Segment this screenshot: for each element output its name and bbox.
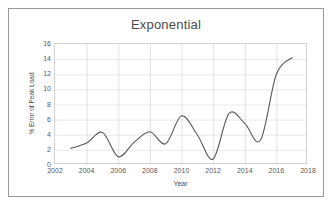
x-tick-label: 2008 <box>142 167 158 175</box>
x-tick-label: 2018 <box>300 167 316 175</box>
x-tick-label: 2002 <box>47 167 63 175</box>
y-tick-label: 12 <box>43 70 51 78</box>
figure-screenshot: Exponential % Error of Peak Load 0246810… <box>0 0 334 214</box>
x-tick-label: 2010 <box>174 167 190 175</box>
x-tick-label: 2012 <box>205 167 221 175</box>
vertical-gridlines <box>87 44 277 165</box>
y-tick-label: 10 <box>43 85 51 93</box>
chart-title: Exponential <box>9 17 323 33</box>
y-tick-label: 4 <box>47 131 51 139</box>
plot-area: 0246810121416 20022004200620082010201220… <box>54 43 307 164</box>
x-tick-label: 2006 <box>110 167 126 175</box>
y-axis-title: % Error of Peak Load <box>27 43 37 164</box>
y-tick-label: 6 <box>47 116 51 124</box>
x-tick-label: 2014 <box>237 167 253 175</box>
figure-caption <box>10 200 324 212</box>
x-tick-label: 2016 <box>269 167 285 175</box>
y-tick-label: 14 <box>43 55 51 63</box>
chart-frame: Exponential % Error of Peak Load 0246810… <box>8 8 324 197</box>
x-axis-title: Year <box>54 179 307 188</box>
y-tick-label: 8 <box>47 101 51 109</box>
plot-svg <box>55 44 308 165</box>
x-tick-label: 2004 <box>79 167 95 175</box>
y-tick-label: 16 <box>43 40 51 48</box>
data-series-line <box>71 58 292 160</box>
y-tick-label: 2 <box>47 146 51 154</box>
